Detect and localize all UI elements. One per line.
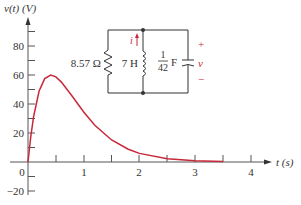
y-ticks bbox=[28, 32, 35, 192]
y-tick-label: −20 bbox=[7, 185, 25, 197]
x-axis-arrow-icon bbox=[264, 160, 272, 165]
voltage-curve bbox=[28, 75, 223, 162]
current-arrowhead-icon bbox=[135, 33, 139, 38]
plus-sign: + bbox=[198, 38, 204, 50]
minus-sign: − bbox=[198, 73, 204, 85]
y-axis-label: v(t) (V) bbox=[4, 2, 36, 15]
current-label: i bbox=[130, 35, 133, 46]
y-axis-arrow-icon bbox=[26, 17, 31, 25]
voltage-label: v bbox=[198, 57, 203, 69]
x-tick-label: 0 bbox=[19, 166, 25, 178]
y-tick-label: 80 bbox=[13, 40, 25, 52]
node-dot bbox=[141, 28, 145, 32]
capacitor-numerator: 1 bbox=[161, 49, 166, 60]
inductor-label: 7 H bbox=[122, 57, 138, 69]
x-tick-label: 4 bbox=[248, 166, 254, 178]
x-axis-label: t (s) bbox=[276, 156, 294, 169]
y-tick-label: 20 bbox=[13, 127, 25, 139]
capacitor-unit: F bbox=[171, 56, 177, 68]
x-tick-label: 2 bbox=[136, 166, 142, 178]
resistor-icon bbox=[104, 50, 112, 75]
chart: −20 20 40 60 80 0 1 2 3 4 v(t) (V) t (s)… bbox=[0, 0, 301, 205]
y-tick-label: 40 bbox=[13, 98, 25, 110]
x-tick-label: 1 bbox=[81, 166, 87, 178]
y-tick-label: 60 bbox=[13, 69, 25, 81]
node-dot bbox=[141, 91, 145, 95]
circuit-diagram bbox=[104, 30, 194, 93]
x-tick-label: 3 bbox=[192, 166, 198, 178]
capacitor-denominator: 42 bbox=[158, 62, 168, 73]
inductor-icon bbox=[143, 51, 146, 76]
resistor-label: 8.57 Ω bbox=[71, 57, 101, 69]
